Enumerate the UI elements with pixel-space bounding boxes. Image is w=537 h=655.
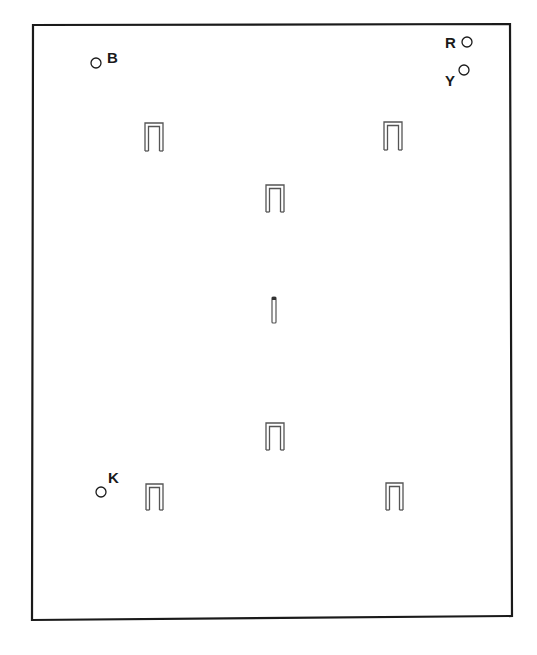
hoops-group xyxy=(145,122,403,510)
peg-icon xyxy=(272,297,276,323)
hoop-lower-center-icon xyxy=(266,423,284,450)
ball-k-icon xyxy=(96,487,106,497)
ball-label-y: Y xyxy=(445,73,455,88)
ball-label-r: R xyxy=(445,35,456,50)
hoop-top-right-icon xyxy=(384,122,402,150)
court-diagram xyxy=(0,0,537,655)
ball-b-icon xyxy=(91,58,101,68)
balls-group xyxy=(91,37,472,497)
ball-y-icon xyxy=(459,65,469,75)
hoop-bottom-left-icon xyxy=(146,484,163,510)
hoop-bottom-right-icon xyxy=(386,483,403,510)
hoop-upper-center-icon xyxy=(266,185,284,212)
ball-r-icon xyxy=(462,37,472,47)
hoop-top-left-icon xyxy=(145,123,163,151)
ball-label-k: K xyxy=(108,470,119,485)
center-peg xyxy=(272,297,276,323)
ball-label-b: B xyxy=(107,50,118,65)
